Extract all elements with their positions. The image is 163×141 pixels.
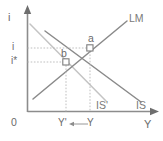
origin-label: 0 — [11, 117, 17, 128]
point-label-a: a — [88, 33, 94, 44]
x-tick-label-y: Y — [87, 118, 94, 128]
y-tick-label-i-star: i* — [11, 56, 17, 66]
y-axis-title: i — [8, 12, 10, 23]
curve-label-is-prime: IS' — [96, 100, 108, 111]
y-axis-arrowhead — [24, 5, 31, 14]
x-axis-title: Y — [144, 119, 151, 130]
curve-label-lm: LM — [129, 13, 144, 24]
x-tick-label-y-prime: Y' — [58, 118, 67, 128]
y-tick-label-i: i — [12, 42, 14, 52]
is-lm-figure: i Y 0 i i* Y' Y LM IS IS' a b — [0, 0, 163, 141]
curve-label-is: IS — [136, 100, 146, 111]
point-marker-b — [63, 59, 69, 65]
point-label-b: b — [61, 48, 67, 59]
x-axis-arrowhead — [150, 108, 159, 115]
point-marker-a — [87, 45, 93, 51]
output-shift-arrowhead — [69, 122, 74, 126]
